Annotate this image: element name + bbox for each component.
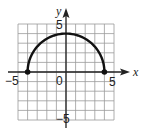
y-max-tick-label: 5: [56, 18, 63, 32]
x-axis-label: x: [132, 65, 139, 79]
coordinate-plane: x y −5 0 5 5 −5: [0, 0, 141, 139]
right-endpoint-dot: [102, 69, 108, 75]
x-min-tick-label: −5: [5, 74, 19, 88]
y-axis-label: y: [55, 4, 62, 18]
y-min-tick-label: −5: [56, 112, 70, 126]
x-max-tick-label: 5: [109, 75, 116, 89]
origin-label: 0: [56, 74, 63, 88]
left-endpoint-dot: [25, 69, 31, 75]
